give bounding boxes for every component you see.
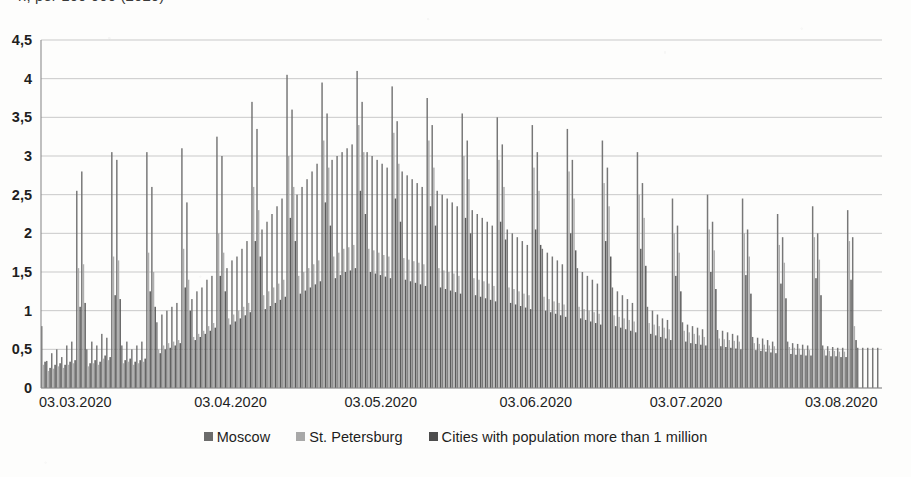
bar	[396, 121, 397, 388]
bar	[770, 352, 771, 388]
bar	[174, 345, 175, 388]
bar	[660, 337, 661, 388]
bar	[645, 266, 646, 388]
bar	[820, 295, 821, 388]
bar	[730, 348, 731, 388]
bar	[113, 257, 114, 388]
bar	[839, 352, 840, 388]
bar	[764, 345, 765, 388]
bar	[665, 339, 666, 388]
bar	[190, 311, 191, 388]
bar	[827, 346, 828, 388]
bar	[815, 278, 816, 388]
bar	[101, 334, 102, 388]
bar	[270, 306, 271, 388]
bar	[245, 315, 246, 388]
bar	[477, 214, 478, 388]
y-axis-tick-label: 3	[24, 148, 32, 164]
bar	[520, 306, 521, 388]
legend-item[interactable]: St. Petersburg	[296, 429, 402, 445]
bar	[253, 187, 254, 388]
bar	[832, 347, 833, 388]
bar	[455, 292, 456, 388]
bar	[373, 250, 374, 388]
y-axis-tick-label: 2,5	[12, 187, 32, 203]
bar	[650, 334, 651, 388]
bar	[159, 353, 160, 388]
bar	[353, 245, 354, 388]
bar	[104, 356, 105, 388]
bar	[560, 315, 561, 388]
bar	[88, 366, 89, 388]
bar	[637, 152, 638, 388]
bar	[772, 342, 773, 388]
bar	[118, 260, 119, 388]
bar	[698, 335, 699, 388]
bar	[225, 291, 226, 388]
bar	[572, 160, 573, 388]
bar	[845, 357, 846, 388]
bar	[119, 299, 120, 388]
bar	[482, 218, 483, 388]
bar	[286, 75, 287, 388]
bar	[116, 160, 117, 388]
bar	[143, 362, 144, 388]
bar	[263, 295, 264, 388]
bar	[528, 295, 529, 388]
bar	[406, 175, 407, 388]
bar	[141, 342, 142, 388]
bar	[325, 202, 326, 388]
bar	[800, 355, 801, 388]
bar	[575, 250, 576, 388]
bar	[829, 351, 830, 388]
bar	[281, 199, 282, 388]
bar	[54, 365, 55, 388]
bar	[460, 294, 461, 388]
bar	[712, 222, 713, 388]
bar	[693, 334, 694, 388]
bar	[306, 179, 307, 388]
bar	[425, 286, 426, 388]
bar	[567, 129, 568, 388]
bar	[722, 331, 723, 388]
bar	[326, 113, 327, 388]
bar	[129, 359, 130, 388]
bar	[647, 307, 648, 388]
bar	[795, 355, 796, 388]
bar	[497, 117, 498, 388]
bar	[343, 249, 344, 388]
bar	[563, 304, 564, 388]
bar	[336, 156, 337, 388]
bar	[200, 337, 201, 388]
legend-item[interactable]: Moscow	[204, 429, 270, 445]
bar	[49, 368, 50, 388]
bar	[739, 342, 740, 388]
bar	[220, 276, 221, 388]
bar	[345, 272, 346, 388]
bar	[857, 348, 858, 388]
bar	[723, 339, 724, 388]
bar	[789, 347, 790, 388]
bar	[308, 268, 309, 388]
bar	[453, 274, 454, 388]
bar	[754, 343, 755, 388]
bar	[668, 329, 669, 388]
bar	[151, 187, 152, 388]
bar	[275, 303, 276, 388]
bar	[393, 133, 394, 388]
y-axis-tick-label: 2	[24, 225, 32, 241]
legend-item[interactable]: Cities with population more than 1 milli…	[429, 429, 708, 445]
bar	[43, 365, 44, 388]
bar	[663, 328, 664, 388]
bar	[667, 320, 668, 388]
bar	[545, 311, 546, 388]
bar	[652, 311, 653, 388]
bar	[565, 317, 566, 388]
bar	[346, 148, 347, 388]
bar	[697, 328, 698, 388]
bar	[498, 160, 499, 388]
bar	[695, 344, 696, 388]
bar	[702, 329, 703, 388]
bar	[602, 141, 603, 388]
bar	[149, 291, 150, 388]
